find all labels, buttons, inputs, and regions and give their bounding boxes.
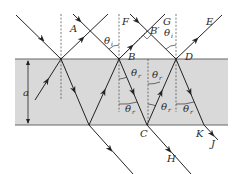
svg-text:i: i — [171, 32, 173, 39]
svg-text:i: i — [111, 40, 113, 47]
svg-text:θ: θ — [131, 67, 137, 78]
svg-text:θ: θ — [164, 27, 170, 38]
point-label-E: E — [205, 16, 214, 27]
point-label-B-prime: B′ — [149, 25, 160, 36]
svg-text:θ: θ — [152, 69, 158, 80]
point-label-K: K — [195, 128, 204, 139]
transmitted-ray-H — [147, 125, 191, 174]
thin-film-diagram: a θ i θ i — [0, 0, 235, 174]
point-label-F: F — [121, 16, 130, 27]
transmitted-ray-1 — [89, 125, 133, 174]
incident-ray-A — [73, 14, 119, 59]
point-label-C: C — [140, 128, 148, 139]
point-label-B: B — [127, 51, 135, 62]
reflected-ray-1 — [61, 14, 108, 59]
angle-label-theta-i-2: θ i — [164, 27, 173, 39]
angle-label-theta-i-1: θ i — [104, 35, 113, 47]
svg-text:θ: θ — [161, 101, 167, 112]
point-label-G: G — [163, 16, 171, 27]
svg-text:θ: θ — [125, 103, 131, 114]
point-label-D: D — [184, 51, 193, 62]
incident-ray-1 — [16, 15, 61, 59]
film-slab — [15, 59, 228, 125]
svg-text:θ: θ — [183, 103, 189, 114]
reflected-ray-E — [176, 15, 222, 59]
thickness-label: a — [23, 87, 29, 98]
point-label-H: H — [166, 153, 176, 164]
point-label-J: J — [209, 138, 216, 149]
svg-text:θ: θ — [104, 35, 110, 46]
point-label-A: A — [69, 23, 77, 34]
angle-arc-theta-i-2 — [166, 45, 176, 49]
